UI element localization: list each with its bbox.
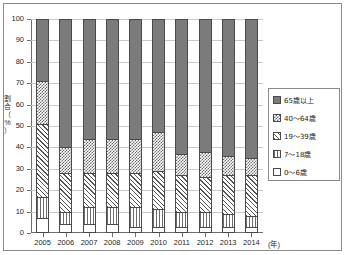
y-axis-tick	[27, 212, 31, 213]
bar-segment-diagonal	[83, 173, 96, 207]
y-axis-label: 40	[0, 142, 24, 151]
plot-area: 0102030405060708090100200520062007200820…	[31, 19, 263, 233]
legend-label: 65歳以上	[284, 95, 314, 105]
y-axis-label: 30	[0, 164, 24, 173]
bar-column[interactable]	[175, 19, 188, 233]
x-axis-label: 2011	[170, 238, 194, 247]
y-axis-tick	[27, 19, 31, 20]
x-axis-tick	[182, 233, 183, 237]
bar-segment-white	[36, 218, 49, 233]
legend-item[interactable]: 40～64歳	[273, 113, 316, 123]
bar-segment-diagonal	[245, 175, 258, 216]
y-axis-tick	[27, 62, 31, 63]
bar-segment-vertical	[59, 212, 72, 225]
bar-segment-vertical	[36, 197, 49, 218]
bar-segment-checker	[106, 139, 119, 173]
x-axis-tick	[89, 233, 90, 237]
x-axis-label: 2014	[239, 238, 263, 247]
y-axis-label: 10	[0, 207, 24, 216]
bar-segment-checker	[36, 81, 49, 124]
bar-segment-vertical	[245, 216, 258, 227]
legend-swatch-white	[273, 168, 281, 176]
legend-item[interactable]: 19～39歳	[273, 131, 316, 141]
bar-segment-checker	[152, 132, 165, 171]
bar-segment-vertical	[129, 207, 142, 226]
legend-swatch-vertical	[273, 150, 281, 158]
y-axis-tick	[27, 169, 31, 170]
y-axis-label: 60	[0, 100, 24, 109]
bar-segment-diagonal	[152, 171, 165, 210]
y-axis-label: 50	[0, 121, 24, 130]
bar-segment-white	[83, 224, 96, 233]
x-axis-unit-label: (年)	[268, 238, 280, 249]
bar-segment-diagonal	[222, 175, 235, 214]
y-axis-tick	[27, 233, 31, 234]
bar-segment-vertical	[222, 214, 235, 227]
chart-figure: 割 合 （ % ） 010203040506070809010020052006…	[0, 0, 346, 255]
y-axis-label: 0	[0, 228, 24, 237]
bar-segment-vertical	[152, 209, 165, 226]
bar-segment-diagonal	[36, 124, 49, 197]
x-axis-tick	[205, 233, 206, 237]
legend-swatch-solid	[273, 96, 281, 104]
bar-column[interactable]	[222, 19, 235, 233]
bar-segment-solid	[222, 19, 235, 156]
bar-segment-solid	[152, 19, 165, 132]
bar-segment-diagonal	[129, 173, 142, 207]
bar-segment-checker	[129, 139, 142, 173]
bar-column[interactable]	[36, 19, 49, 233]
bar-column[interactable]	[106, 19, 119, 233]
x-axis-label: 2010	[147, 238, 171, 247]
x-axis-tick	[228, 233, 229, 237]
y-axis-label: 90	[0, 35, 24, 44]
y-axis-tick	[27, 147, 31, 148]
bar-segment-vertical	[106, 207, 119, 224]
x-axis-label: 2007	[77, 238, 101, 247]
legend-item[interactable]: 0～6歳	[273, 167, 307, 177]
bar-segment-solid	[175, 19, 188, 154]
bar-segment-vertical	[175, 212, 188, 227]
bar-segment-solid	[83, 19, 96, 139]
legend-label: 40～64歳	[284, 113, 316, 123]
y-axis-tick	[27, 83, 31, 84]
x-axis-tick	[112, 233, 113, 237]
bar-column[interactable]	[245, 19, 258, 233]
y-axis-tick	[27, 105, 31, 106]
x-axis-label: 2009	[123, 238, 147, 247]
bar-segment-white	[106, 224, 119, 233]
x-axis-tick	[66, 233, 67, 237]
x-axis-tick	[159, 233, 160, 237]
x-axis-tick	[43, 233, 44, 237]
bar-column[interactable]	[152, 19, 165, 233]
bar-column[interactable]	[83, 19, 96, 233]
y-axis-tick	[27, 126, 31, 127]
y-axis-tick	[27, 40, 31, 41]
y-axis-label: 20	[0, 185, 24, 194]
legend-item[interactable]: 7～18歳	[273, 149, 311, 159]
bar-segment-checker	[83, 139, 96, 173]
bar-segment-vertical	[199, 212, 212, 227]
bar-segment-checker	[199, 152, 212, 178]
bar-segment-diagonal	[59, 173, 72, 212]
bar-segment-solid	[36, 19, 49, 81]
legend-label: 0～6歳	[284, 167, 307, 177]
x-axis-label: 2005	[31, 238, 55, 247]
bar-segment-diagonal	[175, 175, 188, 211]
bar-segment-diagonal	[106, 173, 119, 207]
y-axis-label: 80	[0, 57, 24, 66]
chart-legend: 65歳以上40～64歳19～39歳7～18歳0～6歳	[268, 88, 340, 181]
bar-column[interactable]	[129, 19, 142, 233]
bar-column[interactable]	[59, 19, 72, 233]
x-axis-label: 2008	[100, 238, 124, 247]
bar-segment-vertical	[83, 207, 96, 224]
bar-segment-checker	[175, 154, 188, 175]
x-axis-tick	[135, 233, 136, 237]
bar-segment-solid	[245, 19, 258, 158]
bar-segment-diagonal	[199, 177, 212, 211]
x-axis-label: 2006	[54, 238, 78, 247]
bar-column[interactable]	[199, 19, 212, 233]
bar-segment-white	[59, 224, 72, 233]
bar-segment-checker	[222, 156, 235, 175]
legend-item[interactable]: 65歳以上	[273, 95, 314, 105]
legend-swatch-checker	[273, 114, 281, 122]
